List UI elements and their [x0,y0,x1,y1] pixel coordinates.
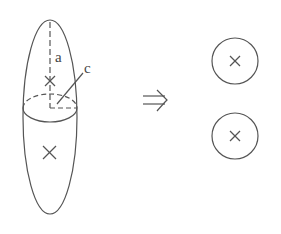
lower-circle-cross-icon [230,131,240,141]
lower-center-cross-icon [43,146,56,159]
upper-circle-cross-icon [230,56,240,66]
ellipsoid-diagram [0,0,281,234]
c-leader-line [57,73,83,104]
label-a: a [55,50,62,65]
label-c: c [84,61,91,76]
implies-arrow-icon [143,90,167,111]
cross-section-front [23,108,77,122]
